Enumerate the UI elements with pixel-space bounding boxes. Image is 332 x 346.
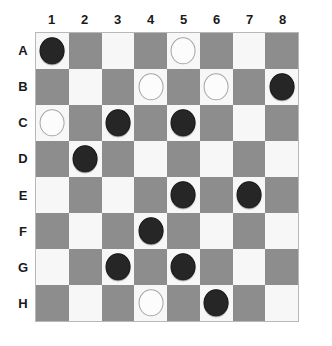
board-square-G3[interactable] [102,249,135,285]
row-label-F: F [13,213,33,249]
column-label-1: 1 [35,10,68,30]
board-square-H5[interactable] [167,285,200,321]
column-label-5: 5 [167,10,200,30]
white-piece-B4[interactable] [138,73,163,100]
board-square-F8[interactable] [265,213,298,249]
board-square-H4[interactable] [134,285,167,321]
board-square-C4[interactable] [134,105,167,141]
board-square-H8[interactable] [265,285,298,321]
checkerboard-grid[interactable] [35,32,299,322]
board-square-A7[interactable] [233,33,266,69]
board-square-C2[interactable] [69,105,102,141]
board-square-E2[interactable] [69,177,102,213]
board-square-H2[interactable] [69,285,102,321]
black-piece-F4[interactable] [138,217,163,244]
board-square-G2[interactable] [69,249,102,285]
board-square-H6[interactable] [200,285,233,321]
row-label-C: C [13,105,33,141]
board-square-D7[interactable] [233,141,266,177]
board-square-F2[interactable] [69,213,102,249]
black-piece-A1[interactable] [40,37,65,64]
board-square-F3[interactable] [102,213,135,249]
board-square-H1[interactable] [36,285,69,321]
board-square-A2[interactable] [69,33,102,69]
board-square-D6[interactable] [200,141,233,177]
board-square-C8[interactable] [265,105,298,141]
board-square-E8[interactable] [265,177,298,213]
white-piece-B6[interactable] [204,73,229,100]
column-label-6: 6 [200,10,233,30]
board-square-F1[interactable] [36,213,69,249]
board-square-A6[interactable] [200,33,233,69]
board-square-A8[interactable] [265,33,298,69]
column-label-7: 7 [233,10,266,30]
row-label-A: A [13,32,33,68]
board-square-E4[interactable] [134,177,167,213]
board-square-C1[interactable] [36,105,69,141]
board-square-C7[interactable] [233,105,266,141]
row-label-B: B [13,68,33,104]
black-piece-E5[interactable] [171,181,196,208]
column-label-8: 8 [266,10,299,30]
board-square-H3[interactable] [102,285,135,321]
board-square-B7[interactable] [233,69,266,105]
board-square-G4[interactable] [134,249,167,285]
black-piece-C3[interactable] [105,109,130,136]
board-square-F6[interactable] [200,213,233,249]
row-header-column: ABCDEFGH [13,32,33,322]
board-square-F5[interactable] [167,213,200,249]
board-square-F7[interactable] [233,213,266,249]
column-label-3: 3 [101,10,134,30]
board-square-B2[interactable] [69,69,102,105]
board-square-A3[interactable] [102,33,135,69]
black-piece-G5[interactable] [171,253,196,280]
checkers-board-widget: 12345678 ABCDEFGH [0,0,332,346]
board-square-E5[interactable] [167,177,200,213]
board-square-D4[interactable] [134,141,167,177]
board-square-D2[interactable] [69,141,102,177]
black-piece-B8[interactable] [269,73,294,100]
board-square-D5[interactable] [167,141,200,177]
black-piece-E7[interactable] [236,181,261,208]
board-square-G8[interactable] [265,249,298,285]
black-piece-D2[interactable] [73,145,98,172]
column-label-4: 4 [134,10,167,30]
row-label-D: D [13,141,33,177]
board-square-E6[interactable] [200,177,233,213]
board-square-C3[interactable] [102,105,135,141]
board-square-F4[interactable] [134,213,167,249]
column-label-2: 2 [68,10,101,30]
black-piece-G3[interactable] [105,253,130,280]
board-square-B8[interactable] [265,69,298,105]
board-square-E1[interactable] [36,177,69,213]
column-header-row: 12345678 [35,10,299,30]
board-square-C6[interactable] [200,105,233,141]
board-square-B1[interactable] [36,69,69,105]
board-square-C5[interactable] [167,105,200,141]
board-square-D3[interactable] [102,141,135,177]
board-square-B5[interactable] [167,69,200,105]
board-square-B3[interactable] [102,69,135,105]
board-square-D1[interactable] [36,141,69,177]
board-square-H7[interactable] [233,285,266,321]
black-piece-H6[interactable] [204,289,229,316]
board-square-G6[interactable] [200,249,233,285]
white-piece-C1[interactable] [40,109,65,136]
board-square-G1[interactable] [36,249,69,285]
board-square-D8[interactable] [265,141,298,177]
board-square-B4[interactable] [134,69,167,105]
white-piece-A5[interactable] [171,37,196,64]
board-square-A5[interactable] [167,33,200,69]
board-square-G7[interactable] [233,249,266,285]
row-label-H: H [13,286,33,322]
board-square-E3[interactable] [102,177,135,213]
board-square-B6[interactable] [200,69,233,105]
white-piece-H4[interactable] [138,289,163,316]
board-square-A1[interactable] [36,33,69,69]
black-piece-C5[interactable] [171,109,196,136]
board-square-E7[interactable] [233,177,266,213]
board-square-A4[interactable] [134,33,167,69]
row-label-G: G [13,250,33,286]
board-square-G5[interactable] [167,249,200,285]
row-label-E: E [13,177,33,213]
